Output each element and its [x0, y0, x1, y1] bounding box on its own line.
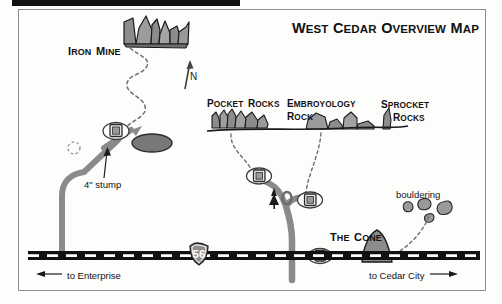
- feature-label-iron-mine: IRON MINE: [68, 42, 121, 58]
- bouldering-approach-dashed: [390, 215, 429, 257]
- west-turnout-circle: [68, 142, 80, 154]
- parking-marker-icon-center-right[interactable]: [298, 192, 323, 208]
- cone-big-0: T: [330, 231, 337, 243]
- title-part-0-big: W: [292, 20, 306, 36]
- feature-label-embryology-rock-line2: ROCK: [287, 107, 313, 123]
- pond-ellipse: [132, 134, 172, 152]
- annotation-bouldering: bouldering: [396, 190, 440, 200]
- highway-56-road: [28, 251, 480, 260]
- title-part-3-big: M: [451, 20, 463, 36]
- feature-label-the-cone: THE CONE: [330, 228, 382, 244]
- sprocket-rocks-formation-shape: [383, 108, 391, 129]
- direction-arrow-west: [36, 271, 62, 277]
- feature-label-sprocket-rocks-line2: ROCKS: [393, 108, 425, 124]
- parking-marker-icon-west[interactable]: [103, 123, 129, 140]
- title-part-0-small: EST: [306, 23, 329, 35]
- pocket-small-0: OCKET: [214, 99, 244, 109]
- title-part-1-big: C: [333, 20, 344, 36]
- highway-shield-number: 56: [193, 248, 206, 260]
- iron-mine-small-0: RON: [71, 47, 91, 57]
- highway-direction-east-label: to Cedar City: [369, 271, 424, 281]
- title-part-2-small: VERVIEW: [393, 23, 447, 35]
- highway-direction-west-label: to Enterprise: [67, 271, 121, 281]
- iron-mine-trail-dashed: [126, 48, 148, 128]
- title-part-1-small: EDAR: [344, 23, 377, 35]
- cone-small-1: ONE: [362, 233, 382, 243]
- page-title: WEST CEDAR OVERVIEW MAP: [292, 20, 479, 36]
- iron-mine-formation-shape: [124, 16, 189, 48]
- embryo-small-1: OCK: [294, 112, 313, 122]
- sprocket-small-1: OCKS: [400, 113, 424, 123]
- pocket-small-1: OCKS: [255, 99, 279, 109]
- direction-arrow-east: [430, 271, 458, 277]
- map-page: 56 WEST CEDAR OVERVIEW MAP IRON MINE N P…: [0, 0, 502, 304]
- pocket-rocks-formation-shape: [212, 109, 268, 128]
- sprocket-big-0: S: [381, 99, 388, 110]
- title-part-2-big: O: [381, 20, 392, 36]
- west-access-road: [62, 126, 142, 255]
- cone-small-0: HE: [337, 233, 350, 243]
- iron-mine-small-1: INE: [105, 47, 120, 57]
- central-access-road: [252, 177, 304, 280]
- compass-label-north: N: [190, 72, 197, 82]
- parking-marker-icon-center-left[interactable]: [247, 168, 272, 184]
- title-part-3-small: AP: [463, 23, 479, 35]
- feature-label-pocket-rocks: POCKET ROCKS: [207, 94, 280, 110]
- highway-shield-56: 56: [190, 243, 208, 265]
- embryology-rock-formation-shape: [306, 112, 374, 129]
- cone-big-1: C: [354, 231, 362, 243]
- annotation-stump: 4" stump: [84, 180, 121, 190]
- iron-mine-big-1: M: [96, 45, 105, 57]
- embryology-approach-dashed: [306, 133, 321, 195]
- pocket-big-0: P: [207, 98, 214, 109]
